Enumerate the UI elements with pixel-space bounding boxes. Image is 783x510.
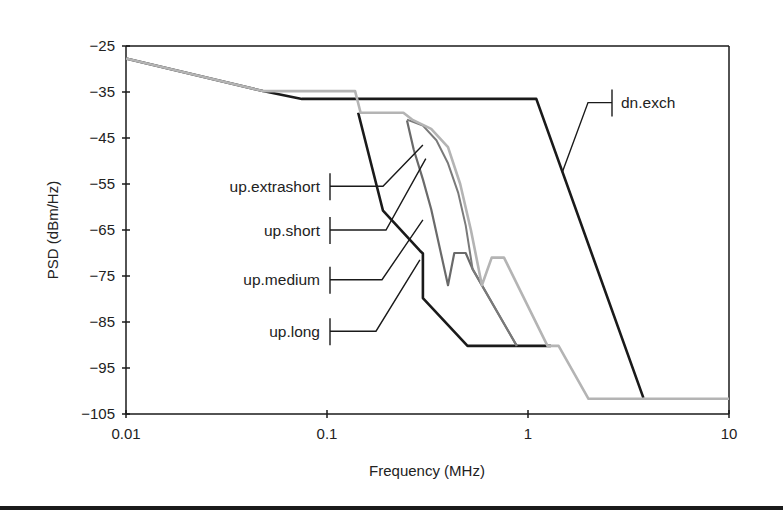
x-axis-ticks: 0.010.1110 (111, 410, 737, 442)
y-tick-label: −95 (90, 359, 115, 376)
x-axis-title: Frequency (MHz) (369, 462, 485, 479)
y-tick-label: −105 (81, 405, 115, 422)
leader-line (330, 220, 423, 280)
label-up-extrashort: up.extrashort (230, 145, 423, 200)
y-tick-label: −85 (90, 313, 115, 330)
series-line-dn-exch (126, 58, 643, 398)
series-labels: up.extrashortup.shortup.mediumup.longdn.… (230, 90, 676, 346)
series-label-text: dn.exch (621, 94, 675, 111)
y-tick-label: −35 (90, 83, 115, 100)
y-tick-label: −45 (90, 129, 115, 146)
bottom-divider (0, 506, 783, 510)
psd-chart: −25−35−45−55−65−75−85−95−105 0.010.1110 … (0, 0, 783, 510)
series-label-text: up.short (264, 222, 321, 239)
y-tick-label: −75 (90, 267, 115, 284)
series-label-text: up.medium (243, 271, 320, 288)
x-tick-label: 10 (721, 425, 738, 442)
y-tick-label: −55 (90, 175, 115, 192)
label-dn-exch: dn.exch (562, 90, 675, 173)
series-label-text: up.extrashort (230, 178, 321, 195)
y-axis-title: PSD (dBm/Hz) (44, 181, 61, 279)
leader-line (562, 103, 612, 173)
x-tick-label: 0.1 (317, 425, 338, 442)
y-axis-ticks: −25−35−45−55−65−75−85−95−105 (81, 37, 130, 422)
y-tick-label: −25 (90, 37, 115, 54)
x-tick-label: 0.01 (111, 425, 140, 442)
leader-line (330, 260, 420, 331)
x-tick-label: 1 (524, 425, 532, 442)
y-tick-label: −65 (90, 221, 115, 238)
series-line-up-medium (407, 121, 517, 346)
series-label-text: up.long (269, 323, 320, 340)
series-line-up-short (407, 120, 517, 346)
